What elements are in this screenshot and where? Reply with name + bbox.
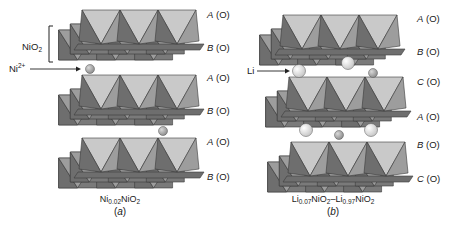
caption-b-formula: Li0.07NiO2–Li0.97NiO2: [292, 194, 375, 204]
li-ion-atom: [365, 124, 378, 137]
panel-b-label: (b): [327, 206, 339, 217]
bottom-edge: [74, 44, 204, 50]
li-ion-atom: [293, 65, 306, 78]
stacking-label-b-2: B (O): [417, 47, 440, 57]
ni2plus-arrow-label: Ni2+: [9, 64, 25, 74]
li-arrow-icon-head: [285, 69, 290, 74]
ni-ion-atom: [159, 127, 168, 136]
li-arrow-label: Li: [247, 66, 254, 76]
nio2-bracket-icon: [49, 26, 53, 62]
stacking-label-b-4: A (O): [417, 112, 440, 122]
bottom-edge: [74, 172, 204, 178]
bottom-edge: [74, 109, 204, 115]
stacking-label-b-5: B (O): [417, 140, 440, 150]
ni-ion-atom: [335, 131, 344, 140]
bottom-edge: [275, 49, 405, 55]
nio2-bracket-label: NiO2: [22, 42, 42, 52]
stacking-label-b-1: A (O): [417, 14, 440, 24]
bottom-edge: [283, 176, 413, 182]
ni2plus-arrow-icon-head: [76, 67, 81, 72]
stacking-label-b-6: C (O): [417, 174, 440, 184]
stacking-label-b-3: C (O): [417, 77, 440, 87]
ni-ion-atom: [369, 69, 378, 78]
stacking-label-a-6: B (O): [207, 172, 230, 182]
crystal-structure-figure: NiO2 Ni2+ Li A (O) B (O) A (O) B (O) A (…: [0, 0, 450, 228]
stacking-label-a-3: A (O): [207, 73, 230, 83]
bottom-edge: [281, 111, 411, 117]
li-ion-atom: [342, 57, 355, 70]
ni-ion-atom: [86, 65, 95, 74]
li-ion-atom: [300, 124, 313, 137]
panel-a-label: (a): [114, 206, 126, 217]
stacking-label-a-4: B (O): [207, 106, 230, 116]
stacking-label-a-2: B (O): [207, 43, 230, 53]
stacking-label-a-5: A (O): [207, 137, 230, 147]
stacking-label-a-1: A (O): [207, 10, 230, 20]
caption-a-formula: Ni0.02NiO2: [100, 194, 140, 204]
